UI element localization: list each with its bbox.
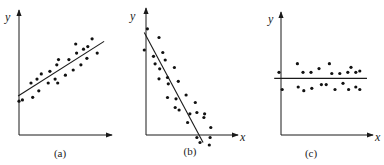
panel-a-data-point xyxy=(75,52,78,55)
panel-a-data-point xyxy=(85,57,88,60)
panel-a-data-point xyxy=(91,37,94,40)
panel-a-data-point xyxy=(40,72,43,75)
panel-c-data-point xyxy=(346,71,349,74)
panel-b-data-point xyxy=(174,97,177,100)
panel-a-data-point xyxy=(56,81,59,84)
panel-b-data-point xyxy=(209,126,212,129)
panel-a-data-point xyxy=(48,70,51,73)
scatter-figure: y(a)yx(b)yx(c) xyxy=(0,0,384,165)
panel-c-data-point xyxy=(317,67,320,70)
panel-c-data-point xyxy=(358,69,361,72)
panel-b-data-point xyxy=(174,106,177,109)
panel-c-data-point xyxy=(301,71,304,74)
panel-a-data-point xyxy=(54,78,57,81)
panel-b-caption: (b) xyxy=(184,145,197,158)
panel-b-x-label: x xyxy=(239,130,246,144)
panel-c-data-point xyxy=(297,85,300,88)
panel-a-data-point xyxy=(96,52,99,55)
panel-a-data-point xyxy=(47,81,50,84)
panel-c-data-point xyxy=(341,82,344,85)
panel-c-data-point xyxy=(347,88,350,91)
panel-c-data-point xyxy=(277,71,280,74)
panel-b-data-point xyxy=(166,96,169,99)
panel-c-caption: (c) xyxy=(305,147,318,160)
panel-b-data-point xyxy=(208,143,211,146)
panel-b-data-point xyxy=(146,27,149,30)
panel-c-data-point xyxy=(328,62,331,65)
panel-b-data-point xyxy=(177,80,180,83)
panel-b-fit-line xyxy=(144,33,203,143)
panel-c-data-point xyxy=(358,88,361,91)
panel-b-data-point xyxy=(185,93,188,96)
panel-c-data-point xyxy=(281,88,284,91)
panel-b-data-point xyxy=(195,111,198,114)
panel-c-y-label: y xyxy=(267,12,274,26)
panel-b-data-point xyxy=(198,141,201,144)
panel-a-data-point xyxy=(35,78,38,81)
panel-a-data-point xyxy=(21,98,24,101)
panel-b-data-point xyxy=(166,76,169,79)
panel-a-data-point xyxy=(64,74,67,77)
panel-b-data-point xyxy=(161,51,164,54)
panel-b-data-point xyxy=(158,67,161,70)
panel-c-data-point xyxy=(330,72,333,75)
panel-c-data-point xyxy=(296,62,299,65)
panel-b-data-point xyxy=(209,136,212,139)
panel-b-data-point xyxy=(178,108,181,111)
panel-c-data-point xyxy=(302,89,305,92)
panel-a-data-point xyxy=(55,63,58,66)
panel-b-data-point xyxy=(173,66,176,69)
panel-b-data-point xyxy=(164,58,167,61)
panel-c-data-point xyxy=(338,72,341,75)
panel-a-data-point xyxy=(79,63,82,66)
panel-a-data-point xyxy=(86,45,89,48)
panel-a-data-point xyxy=(67,58,70,61)
panel-c-data-point xyxy=(349,66,352,69)
panel-c-x-label: x xyxy=(374,130,381,144)
panel-c-data-point xyxy=(320,83,323,86)
panel-a-data-point xyxy=(31,96,34,99)
panel-a-data-point xyxy=(72,68,75,71)
panel-c-data-point xyxy=(310,87,313,90)
panel-b-data-point xyxy=(203,112,206,115)
panel-a-caption: (a) xyxy=(54,147,67,160)
panel-b-y-label: y xyxy=(129,9,136,23)
panel-c-data-point xyxy=(354,85,357,88)
panel-b-data-point xyxy=(202,116,205,119)
panel-a-data-point xyxy=(37,89,40,92)
panel-b-data-point xyxy=(195,136,198,139)
panel-a-y-label: y xyxy=(4,10,11,24)
panel-a-fit-line xyxy=(18,41,104,96)
panel-b-data-point xyxy=(152,55,155,58)
panel-b-data-point xyxy=(154,62,157,65)
panel-a-data-point xyxy=(82,48,85,51)
panel-c-data-point xyxy=(325,83,328,86)
panel-b-data-point xyxy=(186,121,189,124)
panel-b-data-point xyxy=(167,82,170,85)
panel-b-data-point xyxy=(143,48,146,51)
panel-a-data-point xyxy=(29,81,32,84)
panel-a-data-point xyxy=(17,100,20,103)
panel-a-data-point xyxy=(57,58,60,61)
panel-b-data-point xyxy=(157,36,160,39)
panel-b-data-point xyxy=(157,77,160,80)
panel-c-data-point xyxy=(333,88,336,91)
panel-a-data-point xyxy=(74,42,77,45)
panel-b-data-point xyxy=(194,101,197,104)
panel-c-data-point xyxy=(354,71,357,74)
panel-c-data-point xyxy=(309,71,312,74)
panel-b-data-point xyxy=(188,112,191,115)
